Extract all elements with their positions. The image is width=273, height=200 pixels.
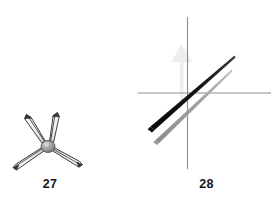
figure-plate: 27: [0, 0, 273, 200]
dark-diagonal-band: [148, 56, 236, 133]
tripod-upper-left-leg: [25, 115, 46, 143]
tripod-lower-left-leg: [13, 147, 45, 170]
figure-28-panel: 28: [136, 0, 273, 200]
figure-28-drawing: [136, 0, 273, 200]
figure-27-panel: 27: [0, 0, 136, 200]
tripod-lower-right-leg: [53, 147, 83, 167]
figure-28-caption: 28: [138, 178, 273, 191]
figure-27-caption: 27: [0, 178, 118, 191]
tripod-center-hub: [41, 141, 55, 153]
light-diagonal-band: [153, 70, 232, 146]
figure-27-drawing: [0, 0, 136, 200]
tripod-upper-right-leg: [50, 113, 60, 143]
